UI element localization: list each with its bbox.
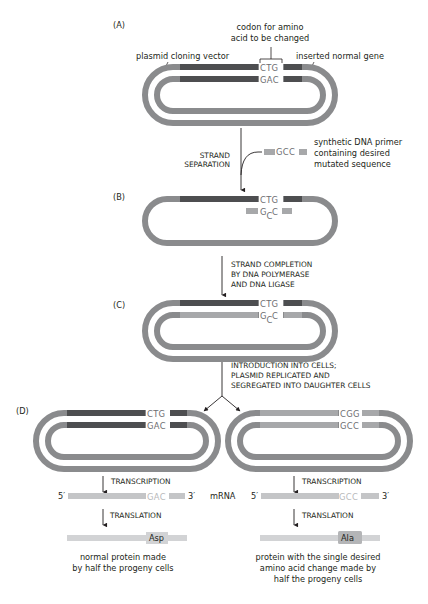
gene-insert-bottom	[180, 76, 258, 82]
panel-a-label: (A)	[113, 20, 125, 30]
primer-label-line2: containing desired	[314, 148, 390, 158]
step-introduction-line1: INTRODUCTION INTO CELLS;	[231, 361, 336, 370]
primer-label-line1: synthetic DNA primer	[314, 137, 403, 147]
amino-acid-asp: Asp	[149, 533, 164, 543]
step-completion-line3: AND DNA LIGASE	[231, 280, 295, 289]
transcription-right: TRANSCRIPTION	[301, 477, 362, 486]
c-top-seq: CTG	[260, 299, 278, 309]
mrna-right-seq: GCC	[339, 492, 358, 502]
single-strand-template	[145, 199, 335, 243]
panel-c-label: (C)	[113, 300, 125, 310]
transcription-left: TRANSCRIPTION	[110, 477, 171, 486]
step-separation-line1: STRAND	[200, 151, 231, 160]
panel-c: (C) CTG G C C	[113, 299, 335, 360]
annealed-primer-left	[246, 208, 258, 214]
heteroduplex-inner	[157, 315, 323, 347]
gene-label: inserted normal gene	[296, 51, 384, 61]
synthetic-primer: GCC synthetic DNA primer containing desi…	[264, 137, 403, 169]
plasmid-normal: CTG GAC	[36, 409, 218, 470]
gene-template-strand	[180, 196, 258, 202]
arrow-to-normal	[204, 396, 222, 411]
primer-join-curve	[241, 152, 262, 175]
d-left-top-seq: CTG	[147, 409, 165, 419]
step-completion-line2: BY DNA POLYMERASE	[231, 270, 310, 279]
caption-mutant-line2: amino acid change made by	[260, 563, 376, 573]
plasmid-mutant: CGG GCC	[228, 409, 410, 470]
d-right-top-seq: CGG	[340, 409, 360, 419]
b-top-seq: CTG	[260, 195, 278, 205]
codon-top-seq: CTG	[260, 63, 278, 73]
mrna-right-3prime: 3′	[382, 491, 389, 501]
mrna-left-seq: GAC	[147, 492, 166, 502]
protein-normal	[67, 535, 187, 541]
panel-b-label: (B)	[113, 192, 125, 202]
panel-d-label: (D)	[16, 406, 29, 416]
codon-label-line2: acid to be changed	[231, 33, 310, 43]
step-separation-line2: SEPARATION	[184, 160, 230, 169]
mrna-right-strand	[261, 493, 339, 499]
heteroduplex-outer	[145, 303, 335, 359]
mrna-left-5prime: 5′	[58, 491, 65, 501]
codon-label-line1: codon for amino	[237, 22, 304, 32]
d-right-bottom-seq: GCC	[340, 421, 359, 431]
mrna-left-strand	[68, 493, 146, 499]
caption-mutant-line1: protein with the single desired	[256, 552, 381, 562]
caption-normal-line2: by half the progeny cells	[72, 563, 173, 573]
gene-insert-top	[180, 64, 258, 70]
primer-label-line3: mutated sequence	[314, 159, 391, 169]
b-primer-c: C	[272, 207, 278, 217]
d-left-bottom-seq: GAC	[147, 421, 166, 431]
annealed-primer-right	[282, 208, 292, 214]
translation-left: TRANSLATION	[109, 511, 161, 520]
translation-right: TRANSLATION	[301, 511, 353, 520]
caption-normal-line1: normal protein made	[80, 552, 166, 562]
step-introduction-line3: SEGREGATED INTO DAUGHTER CELLS	[231, 381, 371, 390]
site-directed-mutagenesis-diagram: (A) codon for amino acid to be changed p…	[0, 0, 428, 604]
plasmid-inner-strand	[157, 79, 323, 111]
panel-a: (A) codon for amino acid to be changed p…	[113, 20, 384, 123]
vector-label: plasmid cloning vector	[136, 51, 230, 61]
mrna-right-5prime: 5′	[251, 491, 258, 501]
primer-seq: GCC	[276, 147, 295, 157]
new-mutant-strand	[180, 312, 258, 318]
plasmid-outer-strand	[145, 67, 335, 123]
mrna-left-3prime: 3′	[188, 491, 195, 501]
mrna-label: mRNA	[210, 491, 236, 501]
gene-insert-bottom-right	[284, 76, 302, 82]
c-bottom-c: C	[272, 311, 278, 321]
step-completion-line1: STRAND COMPLETION	[231, 260, 312, 269]
caption-mutant-line3: half the progeny cells	[274, 574, 363, 584]
gene-insert-top-right	[284, 64, 302, 70]
arrow-to-mutant	[222, 396, 240, 411]
codon-bottom-seq: GAC	[260, 75, 279, 85]
amino-acid-ala: Ala	[341, 533, 354, 543]
step-introduction-line2: PLASMID REPLICATED AND	[231, 371, 330, 380]
panel-b: (B) CTG G C C	[113, 192, 335, 243]
codon-bracket	[260, 47, 282, 64]
